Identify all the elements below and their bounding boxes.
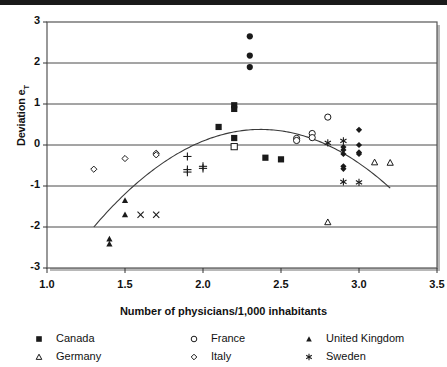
- scatter-chart-figure: Deviation eT Number of physicians/1,000 …: [0, 0, 447, 367]
- legend-label: Canada: [56, 330, 95, 346]
- legend-label: Sweden: [326, 348, 366, 364]
- x-tick-label: 3.5: [417, 278, 447, 290]
- y-tick-label: 1: [14, 96, 40, 108]
- data-point-asterisk: [306, 354, 312, 361]
- filled-square-icon: [30, 330, 48, 346]
- data-point-filled-square: [278, 156, 284, 162]
- asterisk-icon: [300, 348, 318, 364]
- data-point-filled-square: [216, 124, 222, 130]
- data-point-filled-circle: [247, 53, 253, 59]
- data-point-open-diamond: [191, 354, 197, 360]
- data-point-filled-square: [231, 106, 237, 112]
- data-point-filled-circle: [247, 33, 253, 39]
- x-tick-label: 1.0: [27, 278, 67, 290]
- data-point-filled-triangle: [306, 336, 312, 341]
- y-tick-label: -2: [14, 219, 40, 231]
- data-point-filled-square: [262, 155, 268, 161]
- y-tick-label: -1: [14, 178, 40, 190]
- legend-label: France: [211, 330, 245, 346]
- open-diamond-icon: [185, 348, 203, 364]
- data-point-open-circle: [294, 137, 300, 143]
- data-point-filled-square: [231, 135, 237, 141]
- x-tick-label: 3.0: [339, 278, 379, 290]
- y-tick-label: -3: [14, 260, 40, 272]
- open-circle-icon: [185, 330, 203, 346]
- y-tick-label: 0: [14, 137, 40, 149]
- x-tick-label: 2.0: [183, 278, 223, 290]
- series-japan: [231, 144, 237, 150]
- x-tick-label: 1.5: [105, 278, 145, 290]
- x-axis-label: Number of physicians/1,000 inhabitants: [0, 305, 447, 317]
- data-point-filled-circle: [247, 64, 253, 70]
- legend-label: Germany: [56, 348, 101, 364]
- data-point-open-circle: [309, 135, 315, 141]
- open-triangle-icon: [30, 348, 48, 364]
- data-point-open-circle: [325, 114, 331, 120]
- y-tick-label: 2: [14, 55, 40, 67]
- data-point-open-triangle: [36, 354, 42, 359]
- legend-row: CanadaFranceUnited Kingdom: [0, 330, 447, 346]
- legend-label: United Kingdom: [326, 330, 404, 346]
- y-axis-label-subscript: T: [22, 85, 31, 89]
- data-point-open-circle: [191, 336, 197, 342]
- legend-row: GermanyItalySweden: [0, 348, 447, 364]
- chart-legend: CanadaFranceUnited KingdomGermanyItalySw…: [0, 330, 447, 367]
- data-point-open-square: [231, 144, 237, 150]
- data-point-filled-square: [36, 336, 42, 342]
- legend-label: Italy: [211, 348, 231, 364]
- x-tick-label: 2.5: [261, 278, 301, 290]
- y-tick-label: 3: [14, 14, 40, 26]
- filled-triangle-icon: [300, 330, 318, 346]
